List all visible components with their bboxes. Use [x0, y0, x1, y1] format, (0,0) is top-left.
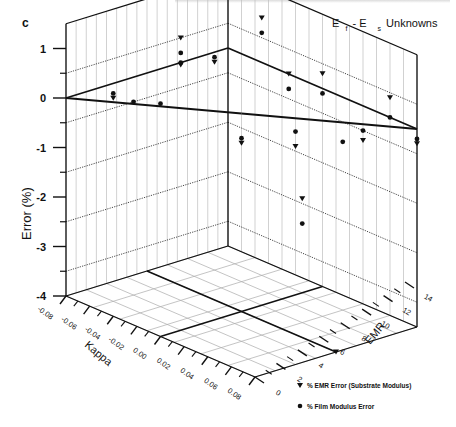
kappa-tick	[84, 306, 90, 314]
emr-minor-tick	[373, 302, 379, 306]
svg-text:E f - E s: E f - E s Unknowns	[332, 17, 438, 33]
data-point-film-modulus-error	[131, 100, 136, 105]
z-tick-label: -2	[36, 191, 46, 203]
legend-triangle-marker	[297, 383, 303, 388]
data-point-emr-error	[239, 141, 245, 146]
emr-tick	[362, 309, 371, 315]
chart-3d-scatter: 10-1-2-3-4-0.08-0.06-0.04-0.020.000.020.…	[0, 0, 456, 427]
emr-minor-tick	[394, 289, 400, 293]
data-point-film-modulus-error	[415, 137, 420, 142]
title-part-minus-E: - E	[352, 17, 366, 29]
data-point-film-modulus-error	[239, 136, 244, 141]
data-point-emr-error	[320, 71, 326, 76]
kappa-minor-tick	[74, 301, 78, 306]
data-point-emr-error	[259, 15, 265, 20]
legend-item-film: % Film Modulus Error	[298, 403, 375, 410]
data-point-film-modulus-error	[361, 128, 366, 133]
data-point-emr-error	[387, 95, 393, 100]
data-point-emr-error	[212, 60, 218, 65]
data-point-emr-error	[360, 138, 366, 143]
title-part-unknowns: Unknowns	[386, 17, 438, 29]
data-point-film-modulus-error	[178, 50, 183, 55]
data-point-film-modulus-error	[293, 129, 298, 134]
title-sub-s: s	[378, 25, 382, 32]
data-point-emr-error	[293, 144, 299, 149]
emr-minor-tick	[309, 343, 315, 347]
grid-lines	[66, 0, 417, 377]
data-point-film-modulus-error	[212, 55, 217, 60]
z-tick-label: 1	[40, 43, 46, 55]
legend: % EMR Error (Substrate Modulus) % Film M…	[297, 382, 411, 410]
data-point-film-modulus-error	[259, 30, 264, 35]
emr-tick-label: 0	[274, 388, 282, 398]
data-point-film-modulus-error	[111, 91, 116, 96]
kappa-tick	[202, 357, 208, 365]
title-part-E: E	[332, 17, 339, 29]
kappa-tick	[225, 367, 231, 375]
emr-tick	[298, 350, 307, 356]
kappa-tick-label: 0.00	[131, 346, 148, 362]
kappa-tick-label: 0.02	[155, 356, 172, 372]
kappa-tick	[178, 347, 184, 355]
kappa-tick-label: -0.06	[59, 314, 78, 331]
legend-label-film: % Film Modulus Error	[307, 403, 375, 410]
kappa-minor-tick	[145, 331, 149, 336]
floor-emr-mid-line	[161, 287, 323, 337]
emr-tick-label: 6	[338, 347, 346, 357]
z-tick-label: -1	[36, 142, 46, 154]
panel-label: c	[22, 16, 29, 30]
chart-title: E f - E s Unknowns	[332, 17, 438, 33]
data-point-emr-error	[414, 141, 420, 146]
data-point-film-modulus-error	[300, 221, 305, 226]
z-tick-label: -4	[36, 290, 47, 302]
z-tick-label: -3	[36, 241, 46, 253]
data-point-film-modulus-error	[178, 60, 183, 65]
emr-minor-tick	[351, 316, 357, 320]
kappa-minor-tick	[121, 321, 125, 326]
kappa-tick	[131, 326, 137, 334]
emr-tick	[384, 296, 393, 302]
data-point-emr-error	[299, 196, 305, 201]
data-point-film-modulus-error	[158, 101, 163, 106]
kappa-minor-tick	[97, 311, 101, 316]
kappa-tick-label: -0.02	[107, 335, 126, 352]
kappa-tick	[107, 316, 113, 324]
data-point-film-modulus-error	[320, 91, 325, 96]
kappa-tick-label: 0.08	[226, 386, 243, 402]
emr-tick	[341, 323, 350, 329]
data-point-film-modulus-error	[340, 139, 345, 144]
data-point-film-modulus-error	[388, 115, 393, 120]
emr-minor-tick	[287, 357, 293, 361]
emr-tick-label: 12	[401, 305, 413, 317]
z-tick-label: 0	[40, 92, 46, 104]
kappa-tick-label: 0.04	[179, 366, 196, 382]
kappa-tick	[155, 337, 161, 345]
title-sub-f: f	[345, 25, 347, 32]
emr-tick-label: 2	[296, 374, 304, 384]
kappa-tick	[60, 296, 66, 304]
data-point-film-modulus-error	[286, 87, 291, 92]
emr-tick-label: 14	[422, 292, 434, 304]
legend-circle-marker	[298, 404, 303, 409]
kappa-minor-tick	[216, 362, 220, 367]
emr-tick-label: 4	[317, 361, 325, 371]
kappa-minor-tick	[192, 352, 196, 357]
z-axis-label: Error (%)	[19, 187, 34, 240]
emr-tick	[255, 377, 264, 383]
kappa-tick-label: -0.08	[36, 304, 55, 321]
zero-plane-diag-left	[66, 98, 242, 114]
kappa-tick-label: 0.06	[202, 376, 219, 392]
emr-tick	[405, 282, 414, 288]
kappa-tick	[249, 377, 255, 385]
legend-label-emr: % EMR Error (Substrate Modulus)	[307, 382, 411, 390]
legend-item-emr: % EMR Error (Substrate Modulus)	[297, 382, 411, 390]
kappa-minor-tick	[168, 342, 172, 347]
emr-tick	[319, 336, 328, 342]
data-point-emr-error	[110, 96, 116, 101]
kappa-minor-tick	[239, 372, 243, 377]
